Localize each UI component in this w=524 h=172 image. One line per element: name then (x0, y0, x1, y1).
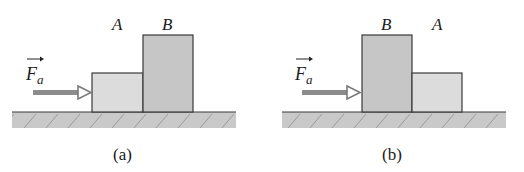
force-arrow-icon (33, 86, 91, 99)
panel-a: F a A B (a) (12, 15, 236, 164)
diagram-canvas: F a A B (a) F a B A (b) (0, 0, 524, 172)
force-label-b: F a (294, 57, 313, 88)
svg-text:a: a (306, 72, 313, 87)
label-block-a: A (111, 15, 123, 34)
block-b-tall (143, 35, 193, 112)
ground-a (12, 112, 236, 128)
force-arrow-icon (302, 86, 360, 99)
panel-b: F a B A (b) (282, 15, 506, 164)
svg-text:a: a (37, 72, 44, 87)
block-a-short (92, 73, 143, 112)
ground-b (282, 112, 506, 128)
caption-b: (b) (382, 145, 402, 164)
block-b-tall (362, 35, 412, 112)
force-label-a: F a (25, 57, 44, 88)
label-block-b: B (162, 15, 173, 34)
block-a-short (412, 73, 462, 112)
label-block-a: A (431, 15, 443, 34)
label-block-b: B (381, 15, 392, 34)
caption-a: (a) (113, 145, 132, 164)
